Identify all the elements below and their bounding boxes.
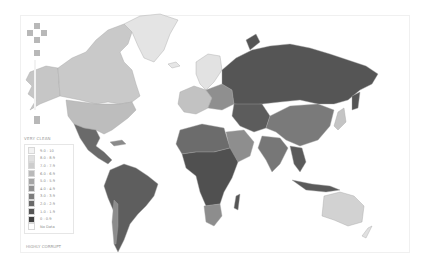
- pan-up-button[interactable]: [34, 23, 40, 29]
- legend-item: 2.0 - 2.9: [28, 200, 71, 208]
- swatch-icon: [28, 155, 35, 162]
- legend: VERY CLEAN 9.0 - 10 8.0 - 8.9 7.0 - 7.9 …: [24, 136, 74, 234]
- legend-item: 9.0 - 10: [28, 147, 71, 155]
- legend-item: 4.0 - 4.9: [28, 185, 71, 193]
- region-greenland[interactable]: [124, 14, 178, 62]
- swatch-icon: [28, 208, 35, 215]
- legend-top-label: VERY CLEAN: [24, 136, 74, 141]
- swatch-icon: [28, 170, 35, 177]
- region-caribbean[interactable]: [110, 140, 126, 146]
- legend-label: 7.0 - 7.9: [40, 164, 55, 168]
- legend-item: 3.0 - 3.9: [28, 193, 71, 201]
- legend-item: 0 - 0.9: [28, 215, 71, 223]
- legend-label: 1.0 - 1.9: [40, 210, 55, 214]
- legend-label: 5.0 - 5.9: [40, 179, 55, 183]
- region-japan[interactable]: [334, 108, 346, 130]
- legend-item: 7.0 - 7.9: [28, 162, 71, 170]
- legend-box: 9.0 - 10 8.0 - 8.9 7.0 - 7.9 6.0 - 6.9 5…: [24, 144, 74, 234]
- region-north-africa[interactable]: [176, 124, 230, 154]
- legend-item: 1.0 - 1.9: [28, 208, 71, 216]
- region-alaska[interactable]: [26, 66, 60, 110]
- region-indonesia[interactable]: [292, 180, 340, 192]
- region-scandinavia[interactable]: [196, 54, 222, 90]
- region-india[interactable]: [258, 136, 288, 172]
- pan-down-button[interactable]: [34, 37, 40, 43]
- legend-item: 6.0 - 6.9: [28, 170, 71, 178]
- region-madagascar[interactable]: [234, 194, 240, 210]
- region-australia[interactable]: [322, 192, 364, 226]
- region-central-asia[interactable]: [232, 104, 270, 132]
- legend-label: 8.0 - 8.9: [40, 156, 55, 160]
- swatch-icon: [28, 178, 35, 185]
- legend-item: 8.0 - 8.9: [28, 155, 71, 163]
- region-south-africa[interactable]: [204, 204, 222, 226]
- swatch-icon: [28, 193, 35, 200]
- legend-label: 6.0 - 6.9: [40, 172, 55, 176]
- legend-label: 3.0 - 3.9: [40, 194, 55, 198]
- legend-label: 4.0 - 4.9: [40, 187, 55, 191]
- swatch-icon: [28, 223, 35, 230]
- pan-right-button[interactable]: [41, 30, 47, 36]
- legend-label: 9.0 - 10: [40, 149, 54, 153]
- legend-label: 0 - 0.9: [40, 217, 52, 221]
- legend-label: No Data: [40, 225, 55, 229]
- swatch-icon: [28, 185, 35, 192]
- legend-bottom-label: HIGHLY CORRUPT: [26, 244, 61, 249]
- zoom-slider[interactable]: [34, 60, 36, 110]
- region-novaya-zemlya[interactable]: [246, 34, 260, 50]
- region-iceland[interactable]: [168, 62, 180, 68]
- region-southeast-asia[interactable]: [290, 146, 306, 172]
- zoom-in-button[interactable]: [34, 50, 40, 56]
- legend-item: No Data: [28, 223, 71, 231]
- swatch-icon: [28, 216, 35, 223]
- region-new-zealand[interactable]: [362, 226, 372, 238]
- swatch-icon: [28, 162, 35, 169]
- zoom-out-button[interactable]: [34, 116, 40, 124]
- legend-item: 5.0 - 5.9: [28, 177, 71, 185]
- pan-left-button[interactable]: [27, 30, 33, 36]
- region-africa[interactable]: [182, 148, 238, 206]
- legend-label: 2.0 - 2.9: [40, 202, 55, 206]
- swatch-icon: [28, 147, 35, 154]
- swatch-icon: [28, 200, 35, 207]
- region-canada[interactable]: [58, 24, 140, 104]
- region-south-america[interactable]: [104, 164, 158, 252]
